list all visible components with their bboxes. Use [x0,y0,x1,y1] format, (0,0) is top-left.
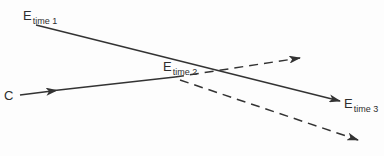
c-line-segment-1 [20,91,52,95]
c-line-segment-2 [50,77,175,91]
label-sub: time 2 [173,67,198,77]
dashed-resultant [180,80,358,140]
vector-diagram: Etime 1 Etime 2 Etime 3 C [0,0,384,156]
label-main: E [23,8,32,23]
label-main: E [344,96,353,111]
label-sub: time 1 [33,16,58,26]
label-c: C [4,89,13,102]
diagram-lines [0,0,384,156]
label-e-time-3: Etime 3 [344,97,378,114]
label-e-time-1: Etime 1 [23,9,57,26]
label-main: E [163,59,172,74]
label-e-time-2: Etime 2 [163,60,197,77]
label-main: C [4,88,13,103]
label-sub: time 3 [354,104,379,114]
